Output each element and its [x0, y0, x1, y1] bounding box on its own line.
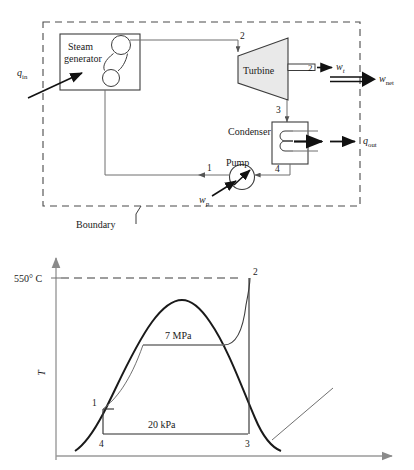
- ts-diagram: T 550° C 20 kPa 7 MPa: [14, 258, 392, 460]
- shaft-marker-label: 2: [308, 63, 313, 73]
- q-out-label: qout: [363, 135, 377, 148]
- state-point-1-schematic: 1: [207, 163, 212, 173]
- turbine-shaft-work: 2 wt: [288, 61, 346, 74]
- pump-label: Pump: [226, 157, 249, 168]
- state-point-3-schematic: 3: [276, 105, 281, 115]
- pipe-pump-to-boiler-arrowhead: [198, 172, 205, 178]
- tmax-label: 550° C: [14, 273, 42, 284]
- w-net-flow: wnet: [330, 72, 394, 88]
- boiler-lower-drum-icon: [103, 70, 120, 87]
- w-p-label: wp: [199, 194, 210, 207]
- ts-state-label-1: 1: [92, 398, 97, 408]
- w-p-flow: wp: [199, 181, 236, 207]
- schematic-diagram: Steam generator qin 2 Turbine 2: [17, 22, 394, 230]
- isobar-7mpa-superheat-curve: [224, 278, 250, 345]
- boundary-leader-line: [136, 206, 141, 224]
- saturation-dome-curve: [75, 300, 281, 451]
- steam-generator-label-line1: Steam: [68, 41, 93, 52]
- w-p-subscript: p: [205, 200, 210, 207]
- compressed-liquid-line: [103, 345, 143, 409]
- ts-state-label-4: 4: [99, 439, 104, 449]
- condenser-label: Condenser: [228, 126, 271, 137]
- boundary-label: Boundary: [76, 219, 115, 230]
- isobar-7mpa-label: 7 MPa: [165, 330, 192, 341]
- q-out-subscript: out: [368, 141, 377, 148]
- boiler-upper-drum-icon: [112, 36, 131, 55]
- condenser-box: [272, 122, 308, 164]
- turbine[interactable]: Turbine: [238, 38, 288, 100]
- ts-y-axis-label: T: [36, 369, 47, 376]
- pipe-condenser-to-pump: [255, 164, 290, 175]
- w-net-subscript: net: [386, 79, 394, 86]
- w-p-arrow: [212, 181, 236, 196]
- isobar-20kpa-label: 20 kPa: [148, 419, 176, 430]
- w-t-label: wt: [336, 61, 346, 74]
- figure-root: Steam generator qin 2 Turbine 2: [0, 0, 414, 470]
- steam-generator-label-line2: generator: [64, 53, 102, 64]
- state-point-4-schematic: 4: [275, 164, 280, 174]
- pipe-boiler-to-turbine: [130, 40, 238, 52]
- boundary-callout: Boundary: [76, 206, 141, 230]
- ts-state-label-3: 3: [245, 439, 250, 449]
- w-net-arrowhead: [362, 72, 376, 88]
- state-point-2-schematic: 2: [240, 31, 245, 41]
- rankine-figure-svg: Steam generator qin 2 Turbine 2: [0, 0, 414, 470]
- w-net-label: wnet: [379, 73, 394, 86]
- isobar-20kpa-superheat-extension: [272, 388, 333, 440]
- turbine-label: Turbine: [243, 65, 275, 76]
- steam-generator[interactable]: Steam generator: [60, 34, 140, 90]
- tmax-annotation: 550° C: [14, 273, 243, 284]
- q-in-subscript: in: [22, 73, 28, 80]
- q-in-label: qin: [17, 67, 28, 80]
- w-t-subscript: t: [343, 67, 346, 74]
- ts-state-label-2: 2: [253, 267, 258, 277]
